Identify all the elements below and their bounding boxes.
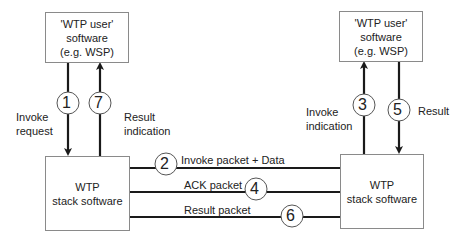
step-number-2: 2: [160, 156, 169, 172]
label-invoke-indication: Invokeindication: [306, 105, 352, 133]
step-number-5: 5: [393, 102, 402, 118]
label-invoke-request: Invokerequest: [16, 110, 53, 138]
box-line: (e.g. WSP): [354, 44, 408, 58]
label-ack-packet: ACK packet: [184, 178, 242, 192]
box-line: software: [360, 30, 402, 44]
step-number-3: 3: [358, 97, 367, 113]
wtp-user-software-right: 'WTP user' software (e.g. WSP): [339, 11, 423, 62]
step-number-1: 1: [62, 95, 71, 111]
label-result-packet: Result packet: [184, 203, 251, 217]
box-line: 'WTP user': [61, 17, 114, 31]
label-invoke-packet-data: Invoke packet + Data: [181, 153, 285, 167]
box-line: 'WTP user': [355, 16, 408, 30]
wtp-user-software-left: 'WTP user' software (e.g. WSP): [45, 12, 129, 63]
wtp-stack-software-left: WTP stack software: [45, 156, 130, 231]
box-line: WTP: [75, 180, 99, 194]
step-number-7: 7: [94, 95, 103, 111]
box-line: stack software: [347, 192, 417, 206]
box-line: (e.g. WSP): [60, 45, 114, 59]
label-result-indication: Resultindication: [124, 110, 170, 138]
box-line: WTP: [370, 178, 394, 192]
box-line: stack software: [52, 194, 122, 208]
wtp-stack-software-right: WTP stack software: [340, 154, 424, 229]
step-number-6: 6: [286, 208, 295, 224]
label-result: Result: [418, 104, 449, 118]
step-number-4: 4: [250, 181, 259, 197]
box-line: software: [66, 31, 108, 45]
